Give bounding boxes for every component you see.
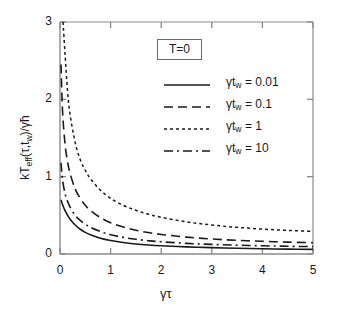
x-tick-label: 5	[303, 263, 323, 277]
legend-label: γtw = 10	[226, 141, 269, 156]
x-axis-title: γτ	[160, 286, 172, 301]
y-axis-title-prefix: kT	[18, 166, 32, 179]
legend-item-0: γtw = 0.01	[163, 72, 308, 94]
y-axis-title-mid: (τ,t	[18, 142, 32, 157]
legend-label-value: = 10	[242, 141, 269, 155]
y-tick-label: 1	[36, 169, 52, 183]
legend-item-1: γtw = 0.1	[163, 94, 308, 116]
legend-label: γtw = 0.1	[226, 97, 272, 112]
legend-line-swatch	[163, 121, 211, 133]
x-axis-title-text: γτ	[160, 286, 172, 301]
legend-label-value: = 0.1	[242, 97, 272, 111]
legend-label-prefix: γt	[226, 97, 235, 111]
legend-label-prefix: γt	[226, 75, 235, 89]
legend-label-value: = 1	[242, 119, 262, 133]
legend-item-3: γtw = 10	[163, 138, 308, 160]
y-axis-title-sub-eff: eff	[24, 157, 34, 166]
curve-series-3	[61, 163, 313, 247]
legend-line-swatch	[163, 143, 211, 155]
chart-legend: γtw = 0.01γtw = 0.1γtw = 1γtw = 10	[163, 72, 308, 160]
x-tick-label: 4	[252, 263, 272, 277]
legend-line-swatch	[163, 77, 211, 89]
temperature-label: T=0	[169, 42, 190, 56]
legend-label: γtw = 0.01	[226, 75, 279, 90]
legend-line-swatch	[163, 99, 211, 111]
legend-label-prefix: γt	[226, 141, 235, 155]
y-tick-label: 3	[36, 14, 52, 28]
legend-label-prefix: γt	[226, 119, 235, 133]
y-tick-label: 0	[36, 246, 52, 260]
y-axis-title: kTeff(τ,tw)/γħ	[18, 78, 33, 218]
legend-item-2: γtw = 1	[163, 116, 308, 138]
y-tick-label: 2	[36, 91, 52, 105]
x-tick-label: 0	[50, 263, 70, 277]
y-axis-title-sub-w: w	[24, 135, 34, 141]
x-tick-label: 2	[151, 263, 171, 277]
legend-label-value: = 0.01	[242, 75, 279, 89]
y-axis-title-suffix: )/γħ	[18, 115, 32, 135]
x-tick-label: 1	[101, 263, 121, 277]
temperature-annotation-box: T=0	[157, 39, 202, 60]
legend-label: γtw = 1	[226, 119, 262, 134]
x-tick-label: 3	[202, 263, 222, 277]
chart-figure: 0123 012345 γτ kTeff(τ,tw)/γħ T=0 γtw = …	[0, 0, 339, 311]
